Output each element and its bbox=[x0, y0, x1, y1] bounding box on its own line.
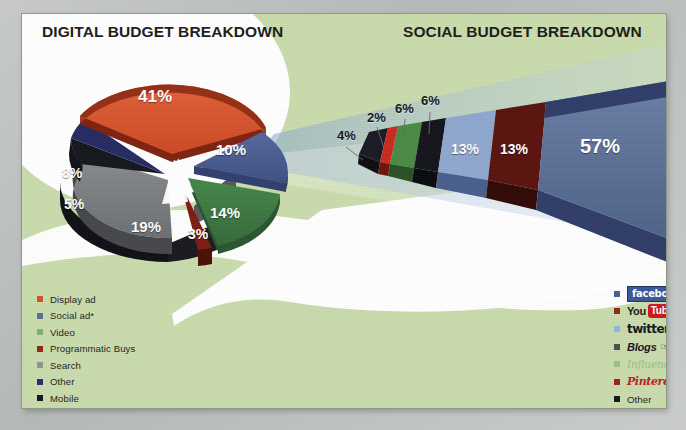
legend-item-mobile[interactable]: Mobile bbox=[37, 390, 135, 407]
infographic-page: DIGITAL BUDGET BREAKDOWN SOCIAL BUDGET B… bbox=[0, 0, 686, 430]
pct-fan-twitter: 13% bbox=[451, 141, 479, 157]
infographic-panel: DIGITAL BUDGET BREAKDOWN SOCIAL BUDGET B… bbox=[22, 14, 666, 408]
legend-label-2: Tube bbox=[648, 304, 666, 318]
legend-item-display-ad[interactable]: Display ad bbox=[37, 291, 135, 308]
legend-label: Social ad* bbox=[50, 310, 94, 321]
pct-fan-blogs: 6% bbox=[421, 93, 440, 108]
legend-swatch-icon bbox=[37, 362, 43, 368]
legend-swatch-icon bbox=[37, 329, 43, 335]
legend-item-other[interactable]: Other bbox=[37, 374, 135, 391]
legend-swatch-icon bbox=[614, 326, 620, 332]
legend-label: Pinterest bbox=[627, 375, 666, 388]
legend-label: Video bbox=[50, 327, 75, 338]
legend-label: facebook bbox=[627, 286, 666, 302]
legend-label: Blogs bbox=[627, 341, 657, 353]
legend-label: Other bbox=[50, 376, 75, 387]
pct-display-ad: 41% bbox=[138, 87, 172, 107]
pct-fan-other: 4% bbox=[337, 128, 356, 143]
pct-fan-influencer: 6% bbox=[395, 101, 414, 116]
legend-swatch-icon bbox=[37, 313, 43, 319]
legend-item-twitter[interactable]: twitter ➤ bbox=[614, 320, 666, 338]
legend-swatch-icon bbox=[614, 361, 620, 367]
youtube-logo-icon: You Tube bbox=[627, 304, 666, 318]
legend-item-blogs[interactable]: Blogs ☞ bbox=[614, 338, 666, 356]
legend-swatch-icon bbox=[614, 396, 620, 402]
legend-item-facebook[interactable]: facebook bbox=[614, 285, 666, 303]
legend-item-pinterest[interactable]: Pinterest bbox=[614, 373, 666, 391]
pct-fan-pinterest: 2% bbox=[367, 110, 386, 125]
legend-item-youtube[interactable]: You Tube bbox=[614, 303, 666, 321]
legend-item-video[interactable]: Video bbox=[37, 324, 135, 341]
legend-swatch-icon bbox=[614, 344, 620, 350]
legend-item-influencer[interactable]: Influencer bbox=[614, 355, 666, 373]
legend-item-social-ad[interactable]: Social ad* bbox=[37, 308, 135, 325]
pct-social-ad: 10% bbox=[216, 141, 246, 158]
digital-budget-pie bbox=[60, 85, 288, 266]
legend-label: Search bbox=[50, 360, 81, 371]
legend-swatch-icon bbox=[614, 308, 620, 314]
legend-label: Display ad bbox=[50, 294, 96, 305]
blogs-logo-icon: Blogs ☞ bbox=[627, 341, 666, 353]
pct-other: 5% bbox=[64, 196, 84, 212]
legend-label: You bbox=[627, 305, 646, 317]
legend-swatch-icon bbox=[37, 395, 43, 401]
legend-swatch-icon bbox=[37, 379, 43, 385]
facebook-logo-icon: facebook bbox=[627, 286, 666, 302]
pct-fan-facebook: 57% bbox=[580, 135, 620, 158]
pct-fan-youtube: 13% bbox=[500, 141, 528, 157]
legend-item-search[interactable]: Search bbox=[37, 357, 135, 374]
twitter-logo-icon: twitter ➤ bbox=[627, 322, 666, 336]
speech-bubble-icon: ☞ bbox=[660, 341, 666, 352]
pct-programmatic: 3% bbox=[188, 226, 208, 242]
legend-item-programmatic-buys[interactable]: Programmatic Buys bbox=[37, 341, 135, 358]
legend-label: Mobile bbox=[50, 393, 79, 404]
pct-video: 14% bbox=[210, 204, 240, 221]
legend-swatch-icon bbox=[614, 379, 620, 385]
pct-search: 19% bbox=[131, 218, 161, 235]
legend-swatch-icon bbox=[37, 296, 43, 302]
legend-swatch-icon bbox=[37, 346, 43, 352]
pct-mobile: 8% bbox=[62, 165, 82, 181]
legend-item-other[interactable]: Other bbox=[614, 391, 666, 408]
legend-social: facebook You Tube twitter ➤ bbox=[614, 285, 666, 408]
legend-label: Other bbox=[627, 394, 652, 405]
legend-label: Programmatic Buys bbox=[50, 343, 135, 354]
legend-label: Influencer bbox=[627, 358, 666, 370]
legend-digital: Display ad Social ad* Video Programmatic… bbox=[37, 291, 135, 407]
social-budget-fan bbox=[346, 80, 666, 264]
legend-swatch-icon bbox=[614, 291, 620, 297]
legend-label: twitter bbox=[627, 322, 666, 336]
